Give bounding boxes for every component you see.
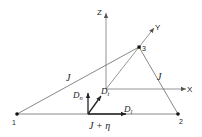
longitudinal-vector-label: Dl (123, 104, 133, 115)
z-axis-label: Z (97, 8, 102, 17)
edge-1-3 (17, 47, 139, 114)
tangential-vector-label: Dt (100, 86, 110, 97)
node-1-label: 1 (12, 119, 16, 126)
edge-label-1-3: J (66, 72, 71, 83)
tangential-vector (88, 96, 101, 114)
edge-label-3-2: J (157, 71, 162, 82)
node-3 (138, 46, 141, 49)
node-3-label: 3 (142, 45, 146, 52)
x-axis-label: X (187, 85, 193, 94)
joint-element-diagram: Z X Y J J J + η Dn Dt Dl 1 2 (0, 0, 202, 137)
element-edges (17, 47, 178, 114)
node-2-label: 2 (179, 118, 183, 125)
normal-vector-label: Dn (72, 90, 83, 101)
node-1 (15, 112, 19, 116)
y-axis (106, 28, 154, 89)
edge-label-1-2: J + η (89, 120, 110, 131)
direction-vectors: Dn Dt Dl (72, 86, 133, 115)
y-axis-label: Y (155, 23, 161, 32)
node-2 (176, 112, 180, 116)
